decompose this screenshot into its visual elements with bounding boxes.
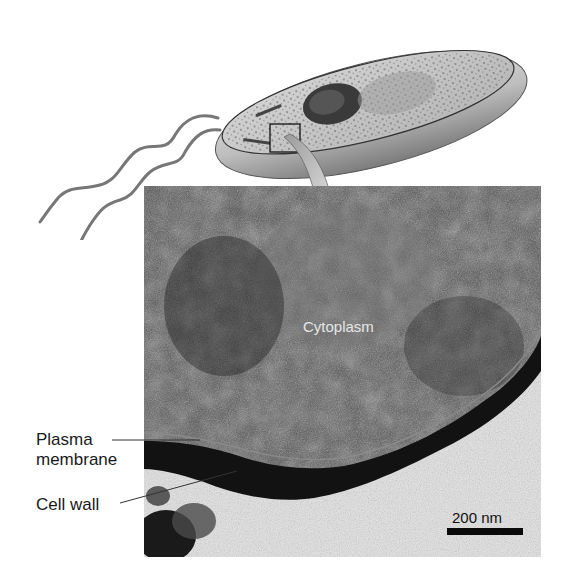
cell-wall-leader <box>120 471 237 503</box>
leader-lines <box>0 0 564 588</box>
